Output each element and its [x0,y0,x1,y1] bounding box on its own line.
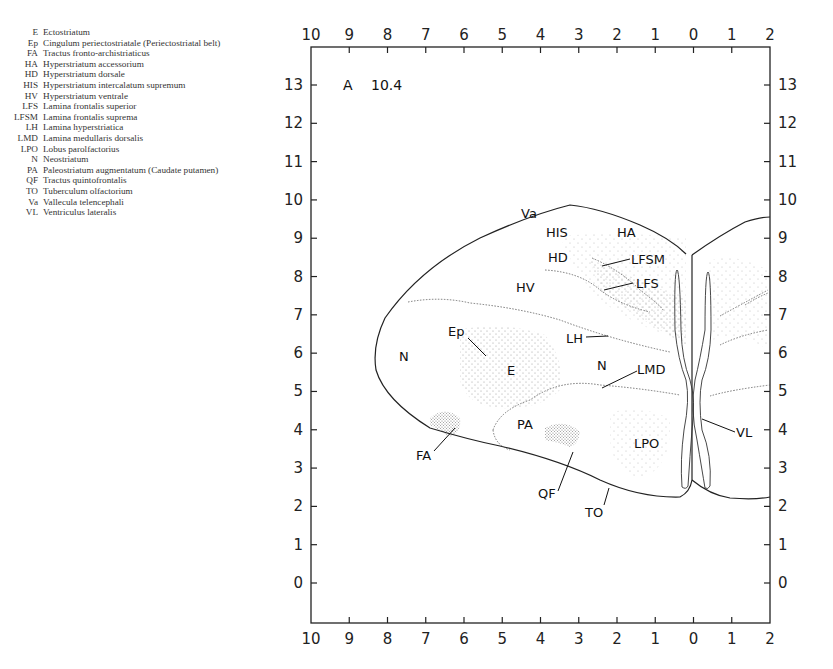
label-hv: HV [516,280,535,295]
x-tick-label-bottom: 4 [536,630,546,648]
x-tick-label-bottom: 0 [689,630,699,648]
x-tick-label-top: 4 [536,26,546,44]
y-tick-label-left: 8 [293,268,303,286]
y-tick-label-right: 8 [778,268,788,286]
y-tick-label-left: 0 [293,574,303,592]
x-tick-label-top: 2 [765,26,775,44]
y-tick-label-left: 13 [284,76,303,94]
x-tick-label-top: 1 [650,26,660,44]
y-tick-label-left: 7 [293,306,303,324]
label-pa: PA [517,417,533,432]
y-tick-label-left: 12 [284,114,303,132]
y-tick-label-left: 4 [293,421,303,439]
y-tick-label-right: 13 [778,76,797,94]
y-tick-label-left: 1 [293,536,303,554]
y-tick-label-left: 3 [293,459,303,477]
y-tick-label-left: 9 [293,229,303,247]
stereotaxic-atlas-plate: 1010998877665544332211001122 13131212111… [0,0,833,669]
y-tick-label-right: 5 [778,382,788,400]
x-tick-label-top: 3 [574,26,584,44]
y-tick-label-right: 0 [778,574,788,592]
y-tick-label-right: 11 [778,153,797,171]
label-his: HIS [546,225,568,240]
x-tick-label-bottom: 2 [765,630,775,648]
label-n-left: N [399,349,409,364]
label-qf: QF [538,486,556,501]
x-tick-label-bottom: 2 [612,630,622,648]
y-tick-label-left: 11 [284,153,303,171]
y-tick-label-right: 3 [778,459,788,477]
x-tick-label-bottom: 3 [574,630,584,648]
label-e: E [507,363,515,378]
x-tick-label-bottom: 5 [497,630,507,648]
label-va: Va [521,206,537,221]
x-tick-label-top: 7 [421,26,431,44]
label-n-mid: N [597,358,607,373]
y-tick-label-right: 10 [778,191,797,209]
x-tick-label-top: 10 [301,26,320,44]
label-lmd: LMD [637,362,665,377]
y-tick-label-right: 4 [778,421,788,439]
label-lpo: LPO [634,436,659,451]
label-hd: HD [548,250,568,265]
label-ep: Ep [448,324,464,339]
x-tick-label-bottom: 1 [650,630,660,648]
label-ha: HA [617,225,636,240]
label-lfs: LFS [636,276,659,291]
plate-letter: A [343,77,353,93]
y-tick-label-right: 1 [778,536,788,554]
y-tick-label-right: 6 [778,344,788,362]
x-tick-label-bottom: 7 [421,630,431,648]
x-tick-label-top: 2 [612,26,622,44]
x-tick-label-top: 0 [689,26,699,44]
label-fa: FA [416,448,431,463]
y-tick-label-left: 5 [293,382,303,400]
y-tick-label-left: 6 [293,344,303,362]
y-tick-label-right: 9 [778,229,788,247]
x-tick-label-top: 1 [727,26,737,44]
label-lfsm: LFSM [631,252,665,267]
y-tick-label-left: 10 [284,191,303,209]
plate-number: 10.4 [371,77,402,93]
label-vl: VL [736,425,753,440]
x-tick-label-top: 6 [459,26,469,44]
x-tick-label-bottom: 8 [383,630,393,648]
x-tick-label-bottom: 1 [727,630,737,648]
x-tick-label-bottom: 6 [459,630,469,648]
x-tick-label-bottom: 9 [344,630,354,648]
label-to: TO [584,505,603,520]
y-tick-label-right: 12 [778,114,797,132]
label-lh: LH [566,331,583,346]
x-tick-label-bottom: 10 [301,630,320,648]
y-tick-label-right: 2 [778,497,788,515]
y-tick-label-left: 2 [293,497,303,515]
lateral-ventricles [675,270,711,489]
x-tick-label-top: 9 [344,26,354,44]
y-tick-label-right: 7 [778,306,788,324]
x-tick-label-top: 5 [497,26,507,44]
x-tick-label-top: 8 [383,26,393,44]
